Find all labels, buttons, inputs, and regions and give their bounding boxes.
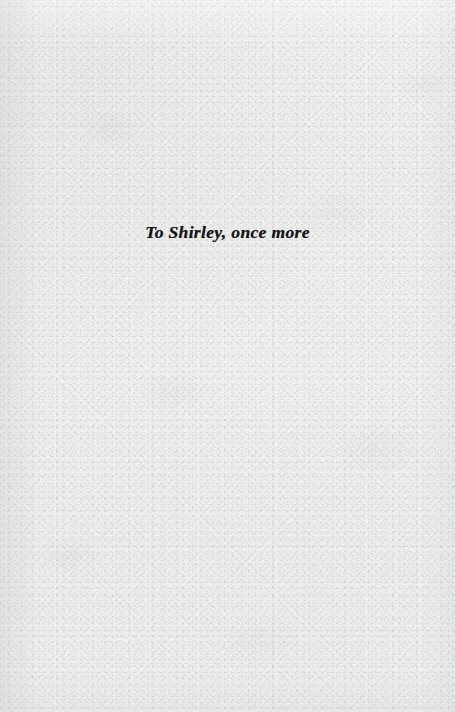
dedication-text: To Shirley, once more (145, 222, 310, 242)
book-dedication-page: To Shirley, once more (0, 0, 455, 712)
paper-edge-vignette (0, 0, 455, 712)
dedication-block: To Shirley, once more (0, 222, 455, 242)
